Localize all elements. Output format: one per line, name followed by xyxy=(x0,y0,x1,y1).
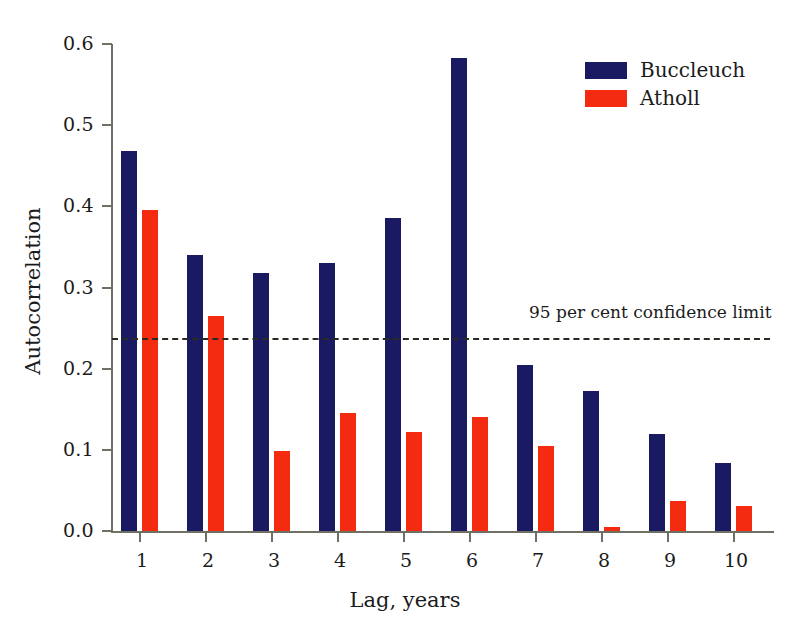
x-tick-mark xyxy=(337,531,339,542)
x-tick-label: 9 xyxy=(646,549,694,571)
bar-buccleuch-lag-2 xyxy=(187,255,203,531)
bar-buccleuch-lag-9 xyxy=(649,434,665,531)
y-tick-mark xyxy=(102,124,112,126)
bar-atholl-lag-4 xyxy=(340,413,356,531)
x-tick-mark xyxy=(271,531,273,542)
bar-atholl-lag-3 xyxy=(274,451,290,531)
x-tick-mark xyxy=(667,531,669,542)
x-tick-label: 5 xyxy=(382,549,430,571)
autocorrelation-bar-chart: 0.00.10.20.30.40.50.6 12345678910 95 per… xyxy=(0,0,810,629)
confidence-limit-line xyxy=(112,338,770,340)
bar-buccleuch-lag-6 xyxy=(451,58,467,531)
bar-atholl-lag-2 xyxy=(208,316,224,531)
x-tick-mark xyxy=(205,531,207,542)
legend-item-buccleuch: Buccleuch xyxy=(585,56,745,84)
y-tick-label: 0.3 xyxy=(48,278,94,297)
bar-atholl-lag-9 xyxy=(670,501,686,531)
y-tick-label: 0.4 xyxy=(48,196,94,215)
y-tick-mark xyxy=(102,205,112,207)
x-axis-line xyxy=(111,531,774,533)
x-tick-label: 2 xyxy=(184,549,232,571)
y-tick-label: 0.1 xyxy=(48,440,94,459)
bar-buccleuch-lag-8 xyxy=(583,391,599,531)
y-tick-mark xyxy=(102,449,112,451)
x-tick-label: 1 xyxy=(118,549,166,571)
legend-label-buccleuch: Buccleuch xyxy=(640,59,745,81)
x-tick-mark xyxy=(403,531,405,542)
bar-atholl-lag-6 xyxy=(472,417,488,531)
bar-buccleuch-lag-3 xyxy=(253,273,269,531)
x-tick-label: 7 xyxy=(514,549,562,571)
plot-area xyxy=(112,44,772,531)
chart-legend: BuccleuchAtholl xyxy=(585,56,745,112)
bar-buccleuch-lag-4 xyxy=(319,263,335,531)
bar-buccleuch-lag-5 xyxy=(385,218,401,531)
x-tick-label: 6 xyxy=(448,549,496,571)
bar-buccleuch-lag-10 xyxy=(715,463,731,531)
bar-atholl-lag-1 xyxy=(142,210,158,531)
confidence-limit-label: 95 per cent confidence limit xyxy=(529,302,771,322)
x-tick-label: 3 xyxy=(250,549,298,571)
y-tick-mark xyxy=(102,368,112,370)
y-tick-mark xyxy=(102,530,112,532)
bar-atholl-lag-8 xyxy=(604,527,620,531)
y-tick-mark xyxy=(102,43,112,45)
y-tick-label: 0.6 xyxy=(48,34,94,53)
y-tick-mark xyxy=(102,287,112,289)
bar-atholl-lag-7 xyxy=(538,446,554,531)
legend-swatch-buccleuch xyxy=(585,62,627,79)
legend-item-atholl: Atholl xyxy=(585,84,745,112)
legend-label-atholl: Atholl xyxy=(640,87,700,109)
legend-swatch-atholl xyxy=(585,90,627,107)
x-tick-mark xyxy=(601,531,603,542)
x-tick-label: 10 xyxy=(712,549,760,571)
x-tick-label: 4 xyxy=(316,549,364,571)
x-tick-mark xyxy=(469,531,471,542)
x-tick-mark xyxy=(733,531,735,542)
y-tick-label: 0.2 xyxy=(48,359,94,378)
bar-buccleuch-lag-7 xyxy=(517,365,533,531)
bar-atholl-lag-5 xyxy=(406,432,422,531)
y-tick-label: 0.5 xyxy=(48,115,94,134)
x-tick-label: 8 xyxy=(580,549,628,571)
x-axis-title: Lag, years xyxy=(0,588,810,612)
bar-buccleuch-lag-1 xyxy=(121,151,137,531)
bar-atholl-lag-10 xyxy=(736,506,752,531)
y-axis-title: Autocorrelation xyxy=(21,161,45,421)
x-tick-mark xyxy=(535,531,537,542)
y-tick-label: 0.0 xyxy=(48,521,94,540)
x-tick-mark xyxy=(139,531,141,542)
